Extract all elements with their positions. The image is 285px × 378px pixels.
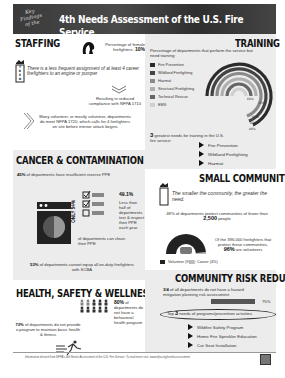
training-subtitle: Percentage of departments that perform t… xyxy=(150,48,260,58)
legend-swatch xyxy=(150,95,155,99)
health-title: HEALTH, SAFETY & WELLNESS xyxy=(16,287,154,299)
volunteer-half-donut-chart xyxy=(164,230,208,256)
crr-progress-bar xyxy=(211,299,255,304)
legend-item: Hazmat xyxy=(150,79,171,83)
legend-swatch xyxy=(150,103,155,107)
female-firefighter-icon xyxy=(81,40,96,55)
svg-text:85%: 85% xyxy=(250,121,257,125)
svg-text:83%: 83% xyxy=(259,101,266,105)
infographic-page: Key Findings of the 4th Needs Assessment… xyxy=(13,4,276,364)
ppe-clean-value: ONLY 54% xyxy=(71,200,76,223)
crr-bar-label: 75% xyxy=(262,299,270,304)
trend-badge-icon xyxy=(159,182,169,206)
small-communities-protect-stat: 48% of departments protect communities o… xyxy=(163,211,271,221)
female-percentage: Percentage of female firefighters: 10% xyxy=(99,42,145,52)
legend-swatch xyxy=(150,71,155,75)
behavioral-health-stat: 80% of departments do not have a behavio… xyxy=(114,300,144,325)
legend-item: Technical Rescue xyxy=(150,95,188,99)
chevron-right-icon xyxy=(23,112,35,130)
training-need-item: Fire Prevention xyxy=(199,142,238,148)
small-communities-title: SMALL COMMUNITIES xyxy=(199,172,285,184)
runner-icon xyxy=(55,340,83,356)
training-need-item: Wildland Firefighting xyxy=(199,151,248,157)
legend-swatch xyxy=(150,87,155,91)
svg-text:68%: 68% xyxy=(247,97,254,101)
crr-need-item: Car Seat Installation xyxy=(188,342,237,348)
training-ring-chart: 63% 85% 86% 68% 83% xyxy=(203,60,275,132)
legend-swatch xyxy=(150,79,155,83)
arrow-right-icon xyxy=(188,342,193,348)
arrow-right-icon xyxy=(188,333,193,339)
fitness-stat: 73% of departments do not provide a prog… xyxy=(15,322,81,337)
crr-hazard-stat: 3/4 of all departments do not have a haz… xyxy=(163,287,259,297)
trend-badge-icon: T R E N xyxy=(15,59,25,83)
crr-title: COMMUNITY RISK REDUCTION xyxy=(175,272,285,284)
arrow-right-icon xyxy=(199,142,204,148)
ppe-inspect-text: Less than half of departments test & ins… xyxy=(119,200,145,230)
ppe-inspect-value: 49.1% xyxy=(119,192,133,197)
staffing-volunteer-text: Many volunteer, or mostly volunteer, dep… xyxy=(39,114,131,129)
footer-divider xyxy=(13,352,276,353)
crr-top-needs-heading: Top 3 needs of programs/prevention activ… xyxy=(167,311,271,316)
small-communities-trend-text: The smaller the community, the greater t… xyxy=(172,190,272,202)
legend-item: EMS xyxy=(150,103,166,107)
washing-machine-icon xyxy=(37,202,71,244)
staffing-result-text: Resulting in reduced compliance with NFP… xyxy=(85,96,145,106)
header-kicker: Key Findings of the xyxy=(15,5,46,28)
crr-need-item: Wildfire Safety Program xyxy=(188,324,243,330)
chevron-down-icon xyxy=(111,85,127,94)
cancer-title: CANCER & CONTAMINATION xyxy=(16,154,144,166)
small-communities-volunteer-stat: Of the 396,000 firefighters that protect… xyxy=(212,237,274,252)
arrow-right-icon xyxy=(188,324,193,330)
crr-need-item: Home Fire Sprinkler Education xyxy=(188,333,257,339)
scba-stat: 53% of departments cannot equip all on-d… xyxy=(27,262,137,272)
header-banner: Key Findings of the 4th Needs Assessment… xyxy=(13,4,276,34)
staffing-trend-text: There is a less frequent assignment of a… xyxy=(27,66,145,77)
staffing-title: STAFFING xyxy=(15,37,60,49)
footer-text: Information derived from NFPA's 4th Need… xyxy=(25,355,190,359)
svg-text:N: N xyxy=(19,77,22,81)
legend-swatch xyxy=(150,63,155,67)
svg-text:86%: 86% xyxy=(249,127,256,131)
legend-item: Fire Prevention xyxy=(150,63,184,67)
arrow-right-icon xyxy=(199,160,204,166)
training-need-item: Hazmat xyxy=(199,160,223,166)
arrow-right-icon xyxy=(199,151,204,157)
svg-text:63%: 63% xyxy=(252,115,259,119)
checklist-icon xyxy=(82,191,118,221)
legend-item: Structural Firefighting xyxy=(150,87,194,91)
cancer-reserve-stat: 45% of departments have insufficient res… xyxy=(17,172,141,177)
legend-item: Career (4%) xyxy=(189,260,218,264)
nfpa-logo-icon xyxy=(260,354,271,365)
legend-item: Wildland Firefighting xyxy=(150,71,192,75)
people-grid-icon xyxy=(79,299,111,313)
ppe-clean-text: of departments can clean their PPE xyxy=(78,236,134,246)
